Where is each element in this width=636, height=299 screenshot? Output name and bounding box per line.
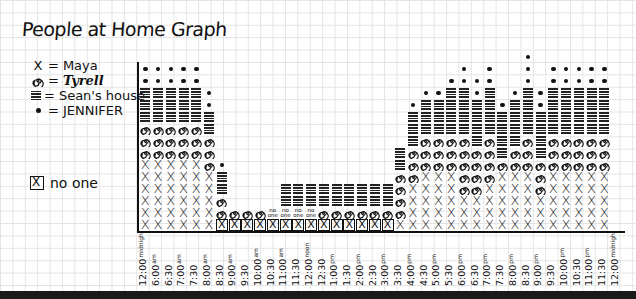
spiral-icon (433, 147, 445, 159)
x-mark-icon (560, 171, 572, 183)
x-mark-icon (458, 207, 470, 219)
lines-icon (394, 159, 406, 171)
spiral-icon (560, 147, 572, 159)
x-mark-icon (139, 195, 151, 207)
spiral-icon (343, 207, 355, 219)
spiral-icon (407, 171, 419, 183)
dot-icon (420, 87, 432, 99)
x-mark-icon (547, 219, 559, 231)
x-tick-label: 8:00pm (507, 234, 520, 286)
x-tick-label: 3:30 (392, 234, 405, 286)
spiral-icon (165, 123, 177, 135)
x-mark-icon (496, 183, 508, 195)
lines-icon (433, 99, 445, 111)
dot-icon (203, 99, 215, 111)
x-tick-label: 6:00pm (456, 234, 469, 286)
lines-icon (586, 123, 598, 135)
x-mark-icon (433, 171, 445, 183)
spiral-icon (535, 183, 547, 195)
dot-icon (471, 87, 483, 99)
chart-column (241, 207, 254, 231)
spiral-icon (458, 159, 470, 171)
lines-icon (343, 195, 355, 207)
chart-column (356, 183, 369, 231)
lines-icon (420, 123, 432, 135)
spiral-icon (394, 171, 406, 183)
boxed-x-icon (229, 219, 241, 231)
lines-icon (190, 87, 202, 99)
x-mark-icon (420, 171, 432, 183)
dot-icon (433, 87, 445, 99)
lines-icon (165, 99, 177, 111)
lines-icon (369, 195, 381, 207)
lines-icon (190, 111, 202, 123)
x-mark-icon (496, 195, 508, 207)
chart-column (458, 63, 471, 231)
lines-icon (152, 87, 164, 99)
x-mark-icon (484, 207, 496, 219)
lines-icon (535, 123, 547, 135)
spiral-icon (484, 147, 496, 159)
spiral-icon (254, 207, 266, 219)
spiral-icon (471, 171, 483, 183)
legend-item-seans-house: =Sean's house (30, 88, 145, 103)
lines-icon (458, 99, 470, 111)
x-mark-icon (203, 207, 215, 219)
chart-column (152, 63, 165, 231)
boxed-x-icon (356, 219, 368, 231)
spiral-icon (471, 147, 483, 159)
chart-column (420, 87, 433, 231)
chart-column (547, 63, 560, 231)
lines-icon (535, 135, 547, 147)
boxed-x-icon (267, 219, 279, 231)
lines-icon (586, 99, 598, 111)
spiral-icon (394, 195, 406, 207)
chart-column (585, 63, 598, 231)
x-mark-icon (573, 195, 585, 207)
x-mark-icon (598, 207, 610, 219)
x-tick-label: 3:00pm (379, 234, 392, 286)
boxed-x-icon: X (30, 176, 44, 190)
x-mark-icon (433, 195, 445, 207)
lines-icon (560, 111, 572, 123)
chart-column (598, 63, 611, 231)
x-tick-label: 11:00pm (583, 234, 596, 286)
chart-column (381, 183, 394, 231)
lines-icon (598, 99, 610, 111)
x-tick-label: 11:30 (596, 234, 609, 286)
spiral-icon (560, 135, 572, 147)
lines-icon (445, 123, 457, 135)
spiral-icon (394, 207, 406, 219)
spiral-icon (369, 207, 381, 219)
boxed-x-icon (331, 219, 343, 231)
x-mark-icon (190, 195, 202, 207)
lines-icon (369, 183, 381, 195)
lines-icon (522, 123, 534, 135)
spiral-icon (573, 147, 585, 159)
spiral-icon (382, 207, 394, 219)
no-one-note-icon: noone (292, 207, 304, 219)
dot-icon (458, 75, 470, 87)
bottom-bar (0, 291, 636, 299)
x-mark-icon (598, 195, 610, 207)
spiral-icon (420, 147, 432, 159)
spiral-icon (535, 171, 547, 183)
lines-icon (203, 111, 215, 123)
spiral-icon (152, 135, 164, 147)
legend-item-no-one: X no one (30, 175, 98, 191)
x-mark-icon (433, 219, 445, 231)
spiral-icon (152, 147, 164, 159)
x-mark-icon (496, 207, 508, 219)
lines-icon (547, 87, 559, 99)
spiral-icon (458, 135, 470, 147)
dot-icon (165, 75, 177, 87)
lines-icon (216, 171, 228, 183)
spiral-icon (178, 147, 190, 159)
x-mark-icon (458, 219, 470, 231)
spiral-icon (152, 123, 164, 135)
x-mark-icon (203, 183, 215, 195)
spiral-icon (356, 207, 368, 219)
lines-icon (496, 123, 508, 135)
x-mark-icon (190, 159, 202, 171)
spiral-icon (445, 147, 457, 159)
